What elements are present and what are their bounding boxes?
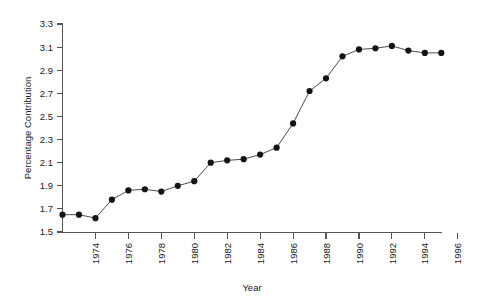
data-point <box>158 188 164 194</box>
y-axis-ticks: 1.51.71.92.12.32.52.72.93.13.3 <box>40 18 63 237</box>
y-axis-title: Percentage Contribution <box>22 77 33 179</box>
y-tick-label: 3.3 <box>40 18 53 29</box>
y-tick-label: 1.9 <box>40 180 53 191</box>
x-tick-label: 1976 <box>123 243 134 264</box>
data-point <box>224 157 230 163</box>
x-tick-label: 1974 <box>90 243 101 264</box>
x-tick-label: 1982 <box>222 243 233 264</box>
x-axis-title: Year <box>242 282 261 293</box>
chart-figure: 1.51.71.92.12.32.52.72.93.13.3 197419761… <box>0 0 480 298</box>
y-tick-label: 2.5 <box>40 111 53 122</box>
y-tick-label: 2.9 <box>40 65 53 76</box>
data-point <box>306 88 312 94</box>
x-tick-label: 1992 <box>387 243 398 264</box>
x-axis-ticks: 1974197619781980198219841986198819901992… <box>90 233 463 265</box>
y-tick-label: 2.3 <box>40 134 53 145</box>
x-tick-label: 1988 <box>321 243 332 264</box>
data-point <box>323 75 329 81</box>
y-tick-label: 2.1 <box>40 157 53 168</box>
y-tick-label: 1.7 <box>40 203 53 214</box>
data-point <box>389 43 395 49</box>
data-point <box>290 120 296 126</box>
data-point <box>257 151 263 157</box>
data-point <box>208 160 214 166</box>
data-point <box>142 186 148 192</box>
data-series-points <box>59 43 444 221</box>
x-tick-label: 1990 <box>354 243 365 264</box>
data-point <box>109 197 115 203</box>
x-tick-label: 1980 <box>189 243 200 264</box>
data-point <box>274 145 280 151</box>
y-tick-label: 2.7 <box>40 88 53 99</box>
data-point <box>125 187 131 193</box>
x-tick-label: 1978 <box>156 243 167 264</box>
data-series-line <box>63 46 442 218</box>
y-tick-label: 1.5 <box>40 226 53 237</box>
data-point <box>438 50 444 56</box>
y-tick-label: 3.1 <box>40 42 53 53</box>
x-tick-label: 1986 <box>288 243 299 264</box>
x-tick-label: 1994 <box>419 243 430 264</box>
data-point <box>339 53 345 59</box>
data-point <box>92 215 98 221</box>
line-chart: 1.51.71.92.12.32.52.72.93.13.3 197419761… <box>0 0 480 298</box>
data-point <box>175 183 181 189</box>
data-point <box>191 178 197 184</box>
x-tick-label: 1984 <box>255 243 266 264</box>
data-point <box>356 46 362 52</box>
data-point <box>405 47 411 53</box>
data-point <box>372 45 378 51</box>
data-point <box>59 212 65 218</box>
data-point <box>422 50 428 56</box>
x-tick-label: 1996 <box>452 243 463 264</box>
data-point <box>241 156 247 162</box>
data-point <box>76 212 82 218</box>
